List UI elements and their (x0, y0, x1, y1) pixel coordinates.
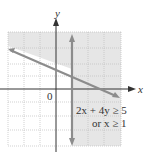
annotation-line2: or x ≥ 1 (92, 118, 126, 129)
origin-label: 0 (47, 91, 53, 102)
x-axis-label: x (138, 84, 143, 95)
y-axis-label: y (55, 8, 60, 19)
y-axis-arrow-icon (53, 18, 59, 26)
x-axis-arrow-icon (128, 86, 136, 92)
annotation-line1: 2x + 4y ≥ 5 (76, 105, 127, 116)
inequality-graph (0, 0, 144, 160)
